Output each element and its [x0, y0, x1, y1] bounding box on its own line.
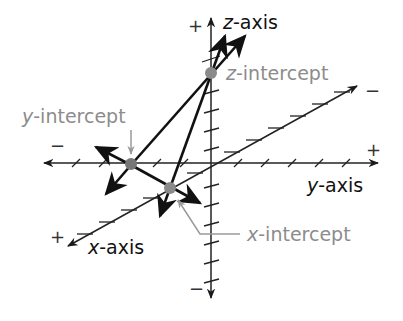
x-negative-sign: − — [365, 80, 380, 101]
z-negative-sign: − — [189, 278, 204, 299]
x-intercept-label: x-intercept — [246, 223, 351, 245]
y-axis-label: y-axis — [306, 174, 363, 196]
trace-yz — [131, 36, 245, 165]
y-intercept-point — [125, 158, 137, 170]
y-negative-sign: − — [50, 135, 65, 156]
x-intercept-point — [164, 182, 176, 194]
diagram-canvas: z-axis y-axis x-axis z-intercept y-inter… — [0, 0, 403, 321]
x-axis-label: x-axis — [87, 236, 144, 258]
z-intercept-point — [205, 67, 217, 79]
z-axis-label: z-axis — [222, 11, 278, 33]
x-positive-sign: + — [50, 226, 65, 247]
y-positive-sign: + — [366, 139, 381, 160]
z-intercept-label: z-intercept — [225, 62, 328, 84]
y-intercept-label: y-intercept — [21, 105, 126, 127]
z-positive-sign: + — [188, 15, 203, 36]
